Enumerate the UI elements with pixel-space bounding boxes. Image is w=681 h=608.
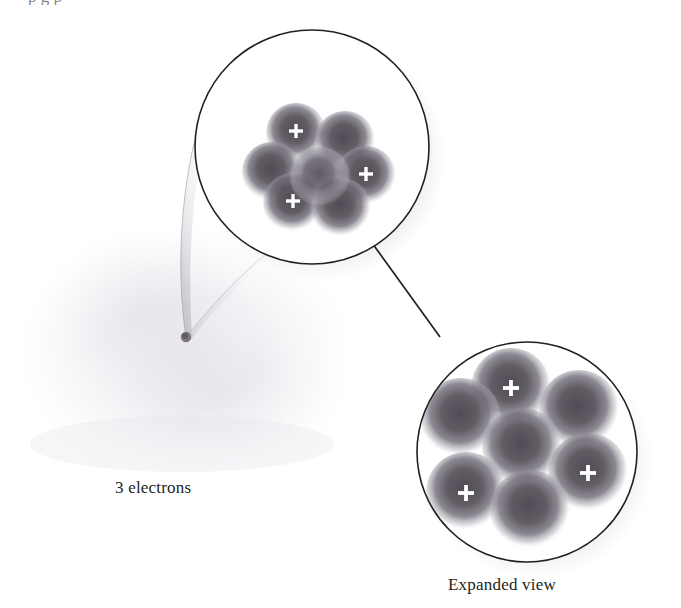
nucleon-expanded <box>490 470 570 550</box>
nucleon-packed <box>290 147 350 207</box>
expanded-view-label: Expanded view <box>448 575 556 595</box>
nucleus-magnified-circle <box>195 30 429 264</box>
figure-canvas: p g p <box>0 0 681 608</box>
atom-nucleus-dot-core <box>182 333 188 339</box>
electrons-label: 3 electrons <box>115 478 191 498</box>
expanded-view-circle <box>417 342 637 562</box>
atom-diagram-svg <box>0 0 681 608</box>
